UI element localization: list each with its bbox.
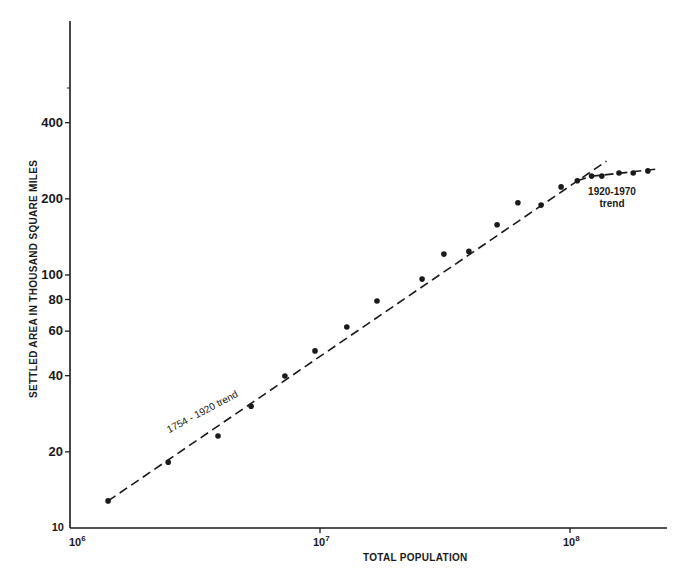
- data-point: [419, 276, 425, 282]
- x-tick-label: 106: [69, 534, 86, 548]
- data-point: [441, 251, 447, 257]
- data-point: [312, 348, 318, 354]
- data-point: [282, 373, 288, 379]
- data-points: [105, 168, 650, 504]
- x-tick-label: 107: [313, 534, 330, 548]
- trend-line-1920-1970: [577, 169, 655, 181]
- data-point: [538, 202, 544, 208]
- y-tick-label: 400: [23, 115, 63, 130]
- data-point: [344, 324, 350, 330]
- data-point: [105, 498, 111, 504]
- trend-lines: [108, 161, 656, 501]
- y-axis-title: SETTLED AREA IN THOUSAND SQUARE MILES: [28, 160, 39, 398]
- data-point: [616, 170, 622, 176]
- data-point: [645, 168, 651, 174]
- data-point: [589, 173, 595, 179]
- data-point: [515, 200, 521, 206]
- data-point: [558, 184, 564, 190]
- data-point: [575, 178, 581, 184]
- x-axis-title: TOTAL POPULATION: [363, 552, 468, 563]
- data-point: [374, 298, 380, 304]
- data-point: [494, 222, 500, 228]
- data-point: [165, 459, 171, 465]
- data-point: [599, 173, 605, 179]
- annotation-1920-1970-trend: 1920-1970 trend: [582, 186, 642, 210]
- annotation-1920-1970-line1: 1920-1970: [582, 186, 642, 198]
- y-tick-label: 20: [23, 444, 63, 459]
- y-tick-label: 10: [24, 521, 64, 533]
- trend-line-1754-1920: [108, 161, 606, 501]
- data-point: [630, 170, 636, 176]
- data-point: [215, 433, 221, 439]
- chart-canvas: [0, 0, 690, 586]
- data-point: [248, 403, 254, 409]
- x-tick-label: 108: [563, 534, 580, 548]
- axes: [65, 21, 667, 533]
- data-point: [466, 249, 472, 255]
- annotation-1920-1970-line2: trend: [582, 198, 642, 210]
